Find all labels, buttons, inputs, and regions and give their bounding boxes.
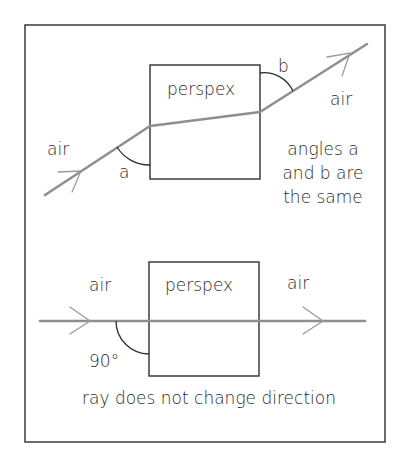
caption-line-3: the same	[283, 187, 363, 207]
refraction-diagram: perspex air air a b angles a and b are t…	[0, 0, 401, 452]
caption-line-1: angles a	[287, 139, 358, 159]
medium-label-perspex: perspex	[167, 79, 235, 99]
medium-label-perspex: perspex	[165, 275, 233, 295]
bottom-panel: air perspex air 90° ray does not change …	[40, 262, 365, 408]
medium-label-air-right: air	[330, 89, 352, 109]
top-panel: perspex air air a b angles a and b are t…	[45, 44, 367, 207]
medium-label-air-left: air	[47, 139, 69, 159]
angle-a-label: a	[119, 162, 129, 182]
right-angle-arc	[116, 321, 149, 354]
caption: ray does not change direction	[82, 388, 336, 408]
angle-b-label: b	[278, 56, 289, 76]
caption-line-2: and b are	[282, 163, 363, 183]
medium-label-air-right: air	[287, 273, 309, 293]
medium-label-air-left: air	[89, 275, 111, 295]
angle-90-label: 90°	[89, 351, 119, 371]
